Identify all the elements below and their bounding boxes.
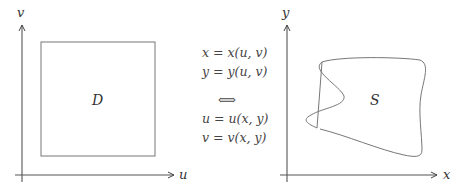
equivalence-arrow: ⟺ (218, 92, 236, 107)
transformation-equations: x = x(u, v) y = y(u, v) ⟺ u = u(x, y) v … (201, 45, 268, 145)
equation-y: y = y(u, v) (201, 64, 267, 79)
transformation-diagram: v u D x = x(u, v) y = y(u, v) ⟺ u = u(x,… (0, 0, 463, 191)
u-axis-label: u (179, 167, 187, 182)
region-d-label: D (91, 92, 103, 108)
uv-plane: v u D (15, 5, 187, 182)
y-axis-label: y (281, 5, 290, 20)
equation-x: x = x(u, v) (202, 45, 267, 60)
x-axis-label: x (443, 167, 451, 182)
region-s-label: S (370, 92, 380, 108)
equation-v: v = v(x, y) (202, 130, 266, 145)
xy-plane: y x S (280, 5, 451, 182)
equation-u: u = u(x, y) (202, 111, 268, 126)
region-s-curve (306, 58, 425, 157)
v-axis-label: v (17, 5, 25, 20)
